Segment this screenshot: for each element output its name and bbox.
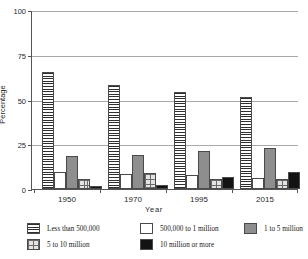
legend-item-5-to-10-million[interactable]: 5 to 10 million — [27, 239, 90, 250]
x-tick-mark — [34, 189, 35, 193]
bar-1970-5-to-10-million[interactable] — [144, 173, 156, 189]
legend-label: 10 million or more — [160, 241, 214, 249]
bar-2015-5-to-10-million[interactable] — [276, 179, 288, 189]
bar-group-1970 — [101, 11, 165, 189]
legend-label: Less than 500,000 — [47, 225, 100, 233]
legend-item-less-than-500000[interactable]: Less than 500,000 — [27, 223, 100, 234]
legend-item-500000-to-1-million[interactable]: 500,000 to 1 million — [140, 223, 219, 234]
bar-2015-less-than-500000[interactable] — [240, 97, 252, 189]
legend-swatch-cross-hatch-icon — [27, 239, 40, 250]
legend-item-10-million-or-more[interactable]: 10 million or more — [140, 239, 214, 250]
legend-swatch-black-icon — [140, 239, 153, 250]
x-tick-label-1950: 1950 — [34, 195, 100, 204]
bar-1950-5-to-10-million[interactable] — [78, 179, 90, 189]
bar-group-2015 — [233, 11, 297, 189]
x-axis-title: Year — [0, 205, 308, 214]
legend-label: 1 to 5 million — [264, 225, 303, 233]
y-tick-label-75: 75 — [18, 51, 26, 60]
bar-1995-5-to-10-million[interactable] — [210, 179, 222, 189]
legend-swatch-horizontal-lines-icon — [27, 223, 40, 234]
bar-1970-1-to-5-million[interactable] — [132, 155, 144, 189]
bar-chart: Percentage 100 75 50 25 0 — [0, 0, 308, 259]
bar-1970-500000-to-1-million[interactable] — [120, 174, 132, 189]
bar-1995-1-to-5-million[interactable] — [198, 151, 210, 189]
legend-item-1-to-5-million[interactable]: 1 to 5 million — [244, 223, 303, 234]
bar-1970-less-than-500000[interactable] — [108, 85, 120, 189]
bar-2015-500000-to-1-million[interactable] — [252, 178, 264, 189]
y-tick-label-50: 50 — [18, 96, 26, 105]
legend-label: 5 to 10 million — [47, 241, 90, 249]
y-axis-title: Percentage — [0, 85, 7, 123]
legend-label: 500,000 to 1 million — [160, 225, 219, 233]
legend-swatch-white-icon — [140, 223, 153, 234]
x-tick-label-1995: 1995 — [166, 195, 232, 204]
plot-area: 100 75 50 25 0 — [31, 11, 298, 190]
legend-swatch-gray-icon — [244, 223, 257, 234]
x-tick-label-1970: 1970 — [100, 195, 166, 204]
y-tick-label-25: 25 — [18, 141, 26, 150]
x-tick-mark — [232, 189, 233, 193]
x-tick-mark — [297, 189, 298, 193]
x-tick-mark — [100, 189, 101, 193]
legend: Less than 500,000 500,000 to 1 million 1… — [27, 223, 305, 257]
x-tick-mark — [166, 189, 167, 193]
bar-1995-500000-to-1-million[interactable] — [186, 175, 198, 189]
bar-group-1950 — [35, 11, 99, 189]
bar-1950-1-to-5-million[interactable] — [66, 156, 78, 189]
bar-2015-10-million-or-more[interactable] — [288, 172, 300, 189]
x-tick-label-2015: 2015 — [232, 195, 298, 204]
bar-2015-1-to-5-million[interactable] — [264, 148, 276, 189]
y-tick-label-0: 0 — [22, 186, 26, 195]
bar-1950-less-than-500000[interactable] — [42, 72, 54, 189]
bar-1995-less-than-500000[interactable] — [174, 92, 186, 189]
bar-1950-500000-to-1-million[interactable] — [54, 172, 66, 189]
bar-group-1995 — [167, 11, 231, 189]
y-tick-label-100: 100 — [13, 7, 26, 16]
